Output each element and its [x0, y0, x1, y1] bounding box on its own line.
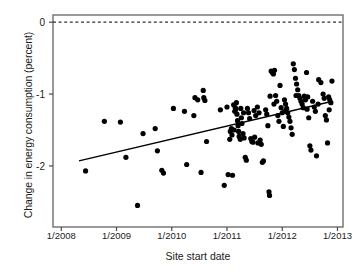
data-point: [102, 119, 107, 124]
data-point: [256, 110, 261, 115]
data-point: [324, 117, 329, 122]
data-point: [291, 61, 296, 66]
data-point: [294, 81, 299, 86]
data-point: [232, 127, 237, 132]
data-point: [244, 158, 249, 163]
data-point: [252, 135, 257, 140]
data-point: [229, 132, 234, 137]
data-point: [247, 116, 252, 121]
data-point: [295, 87, 300, 92]
data-point: [184, 162, 189, 167]
data-point: [288, 125, 293, 130]
data-point: [293, 76, 298, 81]
data-point: [264, 112, 269, 117]
data-point: [234, 100, 239, 105]
data-point: [271, 102, 276, 107]
plot-canvas: [0, 0, 360, 275]
data-point: [279, 105, 284, 110]
data-point: [224, 104, 229, 109]
data-point: [239, 115, 244, 120]
data-point: [226, 172, 231, 177]
data-point: [255, 140, 260, 145]
data-point: [182, 109, 187, 114]
data-point: [316, 102, 321, 107]
data-point: [267, 193, 272, 198]
data-point: [290, 132, 295, 137]
data-point: [140, 131, 145, 136]
axes-border: [53, 15, 343, 227]
data-point: [277, 83, 282, 88]
data-point: [293, 93, 298, 98]
data-point: [123, 155, 128, 160]
data-point: [265, 123, 270, 128]
data-point: [314, 153, 319, 158]
data-point: [171, 106, 176, 111]
axes-frame: [53, 15, 343, 227]
data-point: [155, 148, 160, 153]
data-point: [201, 88, 206, 93]
data-point: [238, 106, 243, 111]
data-point: [239, 121, 244, 126]
scatter-chart-figure: Change in energy consumption (percent) S…: [0, 0, 360, 275]
data-point: [292, 67, 297, 72]
data-point: [305, 94, 310, 99]
data-point: [329, 79, 334, 84]
data-point: [275, 113, 280, 118]
data-point: [233, 107, 238, 112]
data-point: [250, 140, 255, 145]
data-point: [281, 124, 286, 129]
data-point: [287, 119, 292, 124]
data-points-group: [83, 61, 335, 208]
data-point: [202, 98, 207, 103]
data-point: [325, 140, 330, 145]
data-point: [198, 170, 203, 175]
regression-line: [79, 101, 333, 161]
data-point: [304, 70, 309, 75]
data-point: [153, 126, 158, 131]
data-point: [241, 110, 246, 115]
data-point: [204, 139, 209, 144]
data-point: [308, 148, 313, 153]
data-point: [310, 99, 315, 104]
data-point: [267, 94, 272, 99]
data-point: [328, 100, 333, 105]
data-point: [161, 171, 166, 176]
data-point: [230, 173, 235, 178]
data-point: [276, 119, 281, 124]
data-point: [83, 168, 88, 173]
data-point: [261, 158, 266, 163]
data-point: [318, 80, 323, 85]
data-point: [255, 104, 260, 109]
data-point: [304, 107, 309, 112]
data-point: [222, 183, 227, 188]
data-point: [273, 93, 278, 98]
data-point: [118, 119, 123, 124]
data-point: [282, 109, 287, 114]
data-point: [135, 203, 140, 208]
data-point: [272, 68, 277, 73]
data-point: [191, 113, 196, 118]
data-point: [234, 112, 239, 117]
data-point: [242, 135, 247, 140]
data-point: [313, 109, 318, 114]
data-point: [218, 107, 223, 112]
data-point: [306, 115, 311, 120]
trend-line: [79, 101, 333, 161]
data-point: [236, 129, 241, 134]
data-point: [327, 107, 332, 112]
data-point: [195, 97, 200, 102]
data-point: [246, 110, 251, 115]
data-point: [322, 96, 327, 101]
axis-tickmarks: [49, 22, 337, 231]
